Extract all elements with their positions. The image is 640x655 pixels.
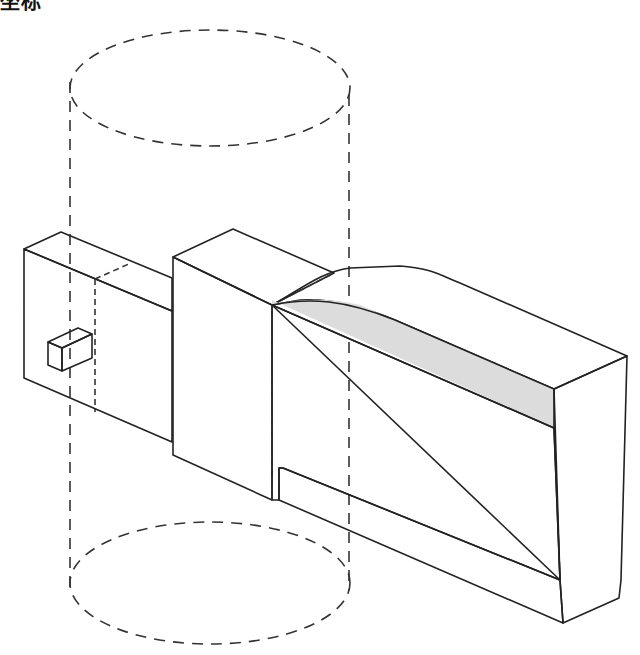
middle-block — [173, 229, 334, 500]
cylinder-bottom-ellipse — [70, 522, 350, 644]
cylinder-top-ellipse — [70, 30, 350, 146]
right-wedge-block — [272, 266, 627, 623]
isometric-diagram — [0, 0, 640, 655]
left-block — [24, 232, 172, 442]
